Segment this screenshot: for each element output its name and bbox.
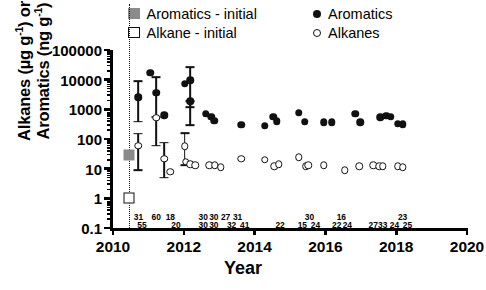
x-axis-tick-label: 2014 xyxy=(237,238,271,256)
y-axis-minor-tick xyxy=(107,218,111,220)
x-axis-line xyxy=(110,228,467,231)
y-axis-tick-label: 100 xyxy=(77,131,102,148)
sample-count-label: 27 xyxy=(369,221,378,229)
data-point-aromatics-initial xyxy=(123,149,134,160)
y-axis-tick xyxy=(104,167,110,170)
data-point-alkanes xyxy=(275,161,283,169)
data-point-aromatics xyxy=(152,89,160,97)
error-bar xyxy=(138,134,140,170)
legend-item-alkane-initial: Alkane - initial xyxy=(128,23,257,42)
data-point-alkanes xyxy=(217,164,225,172)
y-axis-minor-tick xyxy=(107,61,111,63)
error-bar-cap xyxy=(160,142,169,144)
data-point-alkanes xyxy=(152,114,160,122)
legend-label-alkane-initial: Alkane - initial xyxy=(147,25,237,41)
y-axis-title-line-1: Alkanes (µg g-1) or xyxy=(14,1,33,141)
y-axis-title-line-2: Aromatics (ng g-1) xyxy=(33,3,52,140)
y-axis-minor-tick xyxy=(107,129,111,131)
data-point-aromatics xyxy=(186,77,194,85)
y-axis-minor-tick xyxy=(107,180,111,182)
y-axis-minor-tick xyxy=(107,112,111,114)
y-axis-tick xyxy=(104,108,110,111)
y-axis-minor-tick xyxy=(107,52,111,54)
y-axis-minor-tick xyxy=(107,84,111,86)
data-point-alkanes xyxy=(379,163,387,171)
legend-column-initial: Aromatics - initial Alkane - initial xyxy=(128,4,257,42)
legend-column-series: Aromatics Alkanes xyxy=(311,4,392,42)
data-point-aromatics xyxy=(161,112,169,120)
y-axis-minor-tick xyxy=(107,141,111,143)
data-point-aromatics xyxy=(399,121,407,129)
sample-count-label: 22 xyxy=(275,221,284,229)
y-axis-minor-tick xyxy=(107,70,111,72)
x-axis-tick-label: 2010 xyxy=(96,238,130,256)
y-axis-minor-tick xyxy=(107,147,111,149)
y-axis-minor-tick xyxy=(107,100,111,102)
data-point-aromatics xyxy=(135,93,143,101)
y-axis-minor-tick xyxy=(107,88,111,90)
data-point-aromatics xyxy=(328,119,336,127)
data-point-aromatics xyxy=(273,117,281,125)
open-circle-icon xyxy=(313,29,321,37)
y-axis-minor-tick xyxy=(107,213,111,215)
y-axis-minor-tick xyxy=(107,115,111,117)
y-axis-minor-tick xyxy=(107,91,111,93)
error-bar xyxy=(155,118,157,146)
error-bar-cap xyxy=(134,133,143,135)
error-bar-cap xyxy=(180,132,189,134)
data-point-alkanes xyxy=(167,168,175,176)
y-axis-minor-tick xyxy=(107,159,111,161)
y-axis-minor-tick xyxy=(107,202,111,204)
error-bar-cap xyxy=(134,121,143,123)
y-axis-title: Alkanes (µg g-1) or Aromatics (ng g-1) xyxy=(10,0,56,170)
x-axis-tick xyxy=(324,228,327,235)
y-axis-minor-tick xyxy=(107,209,111,211)
legend-item-alkanes: Alkanes xyxy=(311,23,392,42)
chart-legend: Aromatics - initial Alkane - initial Aro… xyxy=(128,4,468,44)
y-axis-minor-tick xyxy=(107,207,111,209)
error-bar xyxy=(155,77,157,116)
data-point-alkane-initial xyxy=(123,192,134,203)
y-axis-tick xyxy=(104,78,110,81)
data-point-aromatics xyxy=(261,122,269,130)
y-axis-minor-tick xyxy=(107,173,111,175)
sample-count-label: 24 xyxy=(343,221,352,229)
legend-label-aromatics-initial: Aromatics - initial xyxy=(147,6,257,22)
error-bar-cap xyxy=(160,177,169,179)
y-axis-minor-tick xyxy=(107,171,111,173)
x-axis-tick xyxy=(466,228,469,235)
data-point-alkanes xyxy=(320,162,328,170)
data-point-aromatics xyxy=(352,110,360,118)
legend-label-aromatics: Aromatics xyxy=(328,6,392,22)
data-point-aromatics xyxy=(210,117,218,125)
sample-count-label: 25 xyxy=(403,221,412,229)
data-point-aromatics xyxy=(320,118,328,126)
y-axis-tick xyxy=(104,138,110,141)
y-axis-minor-tick xyxy=(107,113,111,115)
y-axis-minor-tick xyxy=(107,54,111,56)
y-axis-minor-tick xyxy=(107,58,111,60)
sample-count-label: 33 xyxy=(378,221,387,229)
sample-count-label: 30 xyxy=(199,221,208,229)
y-axis-tick xyxy=(104,227,110,230)
y-axis-minor-tick xyxy=(107,118,111,120)
sample-count-label: 32 xyxy=(227,221,236,229)
x-axis-title: Year xyxy=(0,258,486,279)
y-axis-tick-label: 10000 xyxy=(60,71,102,88)
filled-circle-icon xyxy=(313,10,321,18)
y-axis-tick xyxy=(104,49,110,52)
data-point-alkanes xyxy=(295,154,303,162)
y-axis-minor-tick xyxy=(107,183,111,185)
data-point-alkanes xyxy=(161,155,169,163)
sample-count-label: 24 xyxy=(311,221,320,229)
sample-count-label: 60 xyxy=(152,213,161,221)
data-point-aromatics xyxy=(356,119,364,127)
plot-area: 0.1110100100010000100000 201020122014201… xyxy=(113,50,467,228)
data-point-aromatics xyxy=(237,121,245,129)
y-axis-minor-tick xyxy=(107,201,111,203)
y-axis-minor-tick xyxy=(107,204,111,206)
y-axis-minor-tick xyxy=(107,175,111,177)
y-axis-minor-tick xyxy=(107,120,111,122)
y-axis-minor-tick xyxy=(107,65,111,67)
data-point-aromatics xyxy=(186,97,194,105)
